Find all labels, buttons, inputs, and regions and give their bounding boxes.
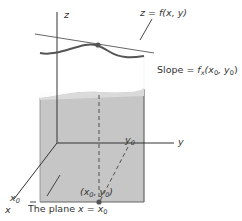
y0-label: y0: [125, 135, 135, 147]
x-axis-label: x: [5, 205, 11, 215]
point-x0-y0-label: (x0, y0): [80, 187, 113, 199]
y-axis-label: y: [178, 137, 184, 147]
surface-label: z = f(x, y): [140, 8, 187, 18]
plane-label: The plane x = x0: [28, 204, 107, 216]
surface-sheet: [30, 37, 160, 98]
z-axis-label: z: [64, 10, 69, 20]
point-on-curve: [95, 42, 100, 47]
x0-label: x0: [10, 193, 20, 205]
pointer-surface: [140, 19, 152, 40]
slope-label: Slope = fx(x0, y0): [157, 65, 238, 77]
partial-derivative-diagram: [0, 0, 242, 221]
